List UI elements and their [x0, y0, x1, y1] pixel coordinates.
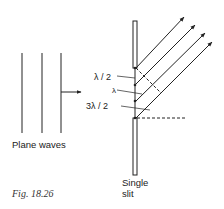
label-half-lambda: λ / 2 — [94, 72, 111, 82]
slit-label-line2: slit — [122, 188, 134, 199]
ray-3 — [136, 33, 205, 101]
figure-caption: Fig. 18.26 — [11, 188, 53, 199]
slit-point-3 — [134, 100, 137, 103]
ray-2 — [136, 25, 195, 84]
label-lambda: λ — [112, 86, 116, 95]
diagram-svg: λ / 2 λ 3λ / 2 Plane waves Single slit F… — [0, 0, 224, 209]
plane-waves-label: Plane waves — [12, 139, 66, 150]
label-three-half-lambda: 3λ / 2 — [86, 101, 108, 111]
slit-label-line1: Single — [122, 177, 148, 188]
slit-lower-barrier — [133, 118, 137, 175]
slit-point-2 — [134, 84, 137, 87]
diffraction-figure: λ / 2 λ 3λ / 2 Plane waves Single slit F… — [0, 0, 224, 209]
slit-point-4 — [134, 117, 137, 120]
slit-point-1 — [134, 67, 137, 70]
leader-lambda — [117, 90, 142, 94]
leader-half-lambda — [117, 76, 135, 78]
slit-upper-barrier — [133, 21, 137, 68]
